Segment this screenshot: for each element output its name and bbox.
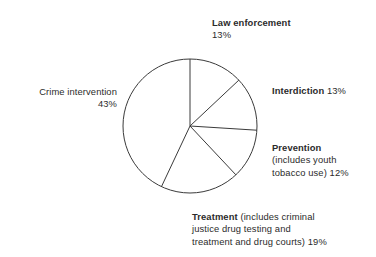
slice-label-law-enforcement-percent: 13% xyxy=(212,29,291,41)
slice-label-interdiction-percent: 13% xyxy=(327,85,346,96)
slice-label-treatment-line3: treatment and drug courts) 19% xyxy=(192,236,327,248)
slice-label-treatment-name: Treatment xyxy=(192,211,238,222)
slice-label-prevention-line3: tobacco use) 12% xyxy=(272,167,349,179)
slice-label-prevention: Prevention (includes youth tobacco use) … xyxy=(272,142,349,179)
slice-label-treatment-line1-rest: (includes criminal xyxy=(240,211,314,222)
pie-chart-figure: Law enforcement 13% Crime intervention 4… xyxy=(0,0,376,257)
slice-label-prevention-line2: (includes youth xyxy=(272,154,349,166)
slice-label-crime-intervention-name: Crime intervention xyxy=(39,86,117,98)
slice-label-crime-intervention: Crime intervention 43% xyxy=(39,86,117,111)
slice-label-treatment-line2: justice drug testing and xyxy=(192,223,327,235)
slice-label-treatment: Treatment (includes criminal justice dru… xyxy=(192,211,327,248)
slice-label-law-enforcement: Law enforcement 13% xyxy=(212,17,291,42)
slice-label-law-enforcement-name: Law enforcement xyxy=(212,17,291,29)
slice-label-interdiction-name: Interdiction xyxy=(272,85,324,96)
slice-label-interdiction: Interdiction 13% xyxy=(272,85,346,97)
slice-label-prevention-name: Prevention xyxy=(272,142,349,154)
slice-label-crime-intervention-percent: 43% xyxy=(39,98,117,110)
